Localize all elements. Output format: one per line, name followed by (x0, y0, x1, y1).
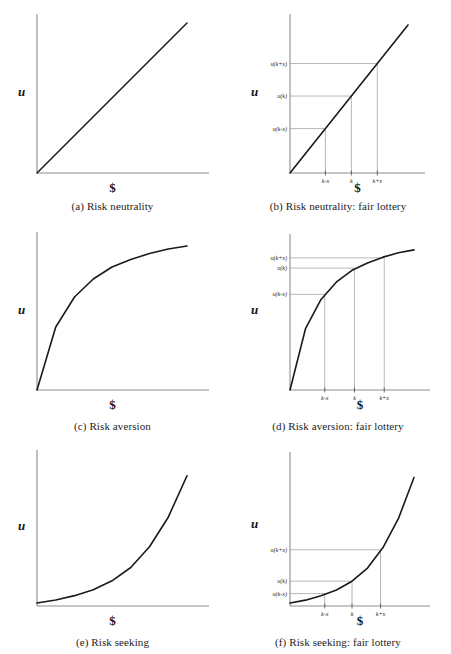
panel-f-y-axis-label: u (251, 516, 258, 532)
panel-d-curve (290, 250, 414, 390)
panel-c-x-axis-label: $ (0, 397, 225, 413)
utility-value-label: u(k) (225, 92, 287, 99)
panel-c-y-axis-label: u (18, 302, 25, 318)
utility-value-label: u(k) (225, 577, 287, 584)
panel-a-x-axis-label: $ (0, 180, 225, 196)
utility-value-label: u(k+x) (225, 60, 287, 67)
panel-f-guide-lines (290, 550, 381, 606)
panel-b-curve (290, 25, 408, 173)
x-tick-label: k+x (372, 394, 396, 401)
utility-value-label: u(k-x) (225, 290, 287, 297)
x-tick-label: k-x (313, 394, 337, 401)
panel-d-caption: (d) Risk aversion: fair lottery (225, 420, 451, 432)
utility-value-label: u(k-x) (225, 590, 287, 597)
panel-c-risk-aversion: u $ (c) Risk aversion (0, 218, 225, 438)
panel-e-x-axis-label: $ (0, 613, 225, 629)
panel-c-curve (37, 246, 187, 390)
panel-f-risk-seeking-fair-lottery: u $ k-xkk+xu(k-x)u(k)u(k+x) (f) Risk see… (225, 438, 451, 654)
panel-c-caption: (c) Risk aversion (0, 420, 225, 432)
panel-a-curve (37, 23, 187, 173)
utility-value-label: u(k) (225, 264, 287, 271)
x-tick-label: k-x (313, 177, 337, 184)
panel-e-risk-seeking: u $ (e) Risk seeking (0, 438, 225, 654)
panel-e-curve (37, 476, 187, 603)
panel-b-risk-neutrality-fair-lottery: u $ k-xkk+xu(k-x)u(k)u(k+x) (b) Risk neu… (225, 0, 451, 218)
x-tick-label: k (343, 394, 367, 401)
utility-value-label: u(k-x) (225, 125, 287, 132)
utility-value-label: u(k+x) (225, 546, 287, 553)
panel-d-risk-aversion-fair-lottery: u $ k-xkk+xu(k-x)u(k)u(k+x) (d) Risk ave… (225, 218, 451, 438)
panel-d-guide-lines (290, 258, 384, 390)
panel-d-y-axis-label: u (251, 302, 258, 318)
panel-a-y-axis-label: u (18, 84, 25, 100)
x-tick-label: k (339, 177, 363, 184)
x-tick-label: k-x (313, 610, 337, 617)
x-tick-label: k (340, 610, 364, 617)
utility-value-label: u(k+x) (225, 254, 287, 261)
panel-e-caption: (e) Risk seeking (0, 636, 225, 648)
utility-figure-grid: u $ (a) Risk neutrality u $ k-xkk+xu(k-x… (0, 0, 451, 654)
panel-a-risk-neutrality: u $ (a) Risk neutrality (0, 0, 225, 218)
panel-b-caption: (b) Risk neutrality: fair lottery (225, 200, 451, 212)
x-tick-label: k+x (365, 177, 389, 184)
panel-e-y-axis-label: u (18, 518, 25, 534)
x-tick-label: k+x (369, 610, 393, 617)
panel-a-caption: (a) Risk neutrality (0, 200, 225, 212)
panel-f-caption: (f) Risk seeking: fair lottery (225, 636, 451, 648)
